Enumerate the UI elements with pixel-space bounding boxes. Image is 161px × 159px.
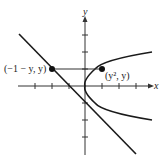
right-point-label: (y², y) (105, 70, 130, 81)
diagram-canvas (0, 0, 161, 159)
left-point-label: (−1 − y, y) (4, 63, 46, 74)
left-point (49, 66, 55, 72)
x-axis-label: x (154, 80, 158, 91)
y-axis-label: y (83, 6, 87, 17)
line-curve (19, 34, 136, 154)
